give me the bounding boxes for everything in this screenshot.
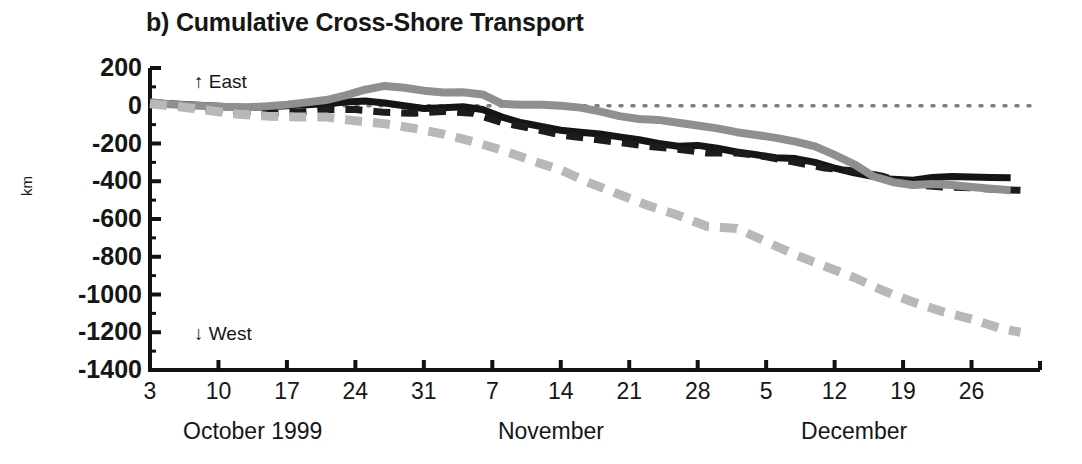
x-tick-label-7: 21 <box>616 378 642 405</box>
chart-figure: b) Cumulative Cross-Shore Transport km 2… <box>0 0 1082 464</box>
x-tick-label-6: 14 <box>548 378 574 405</box>
annotation-east: ↑ East <box>194 71 247 93</box>
x-tick-label-2: 17 <box>274 378 300 405</box>
x-tick-label-4: 31 <box>411 378 437 405</box>
x-tick-label-11: 19 <box>890 378 916 405</box>
x-tick-label-8: 28 <box>685 378 711 405</box>
x-tick-label-3: 24 <box>343 378 369 405</box>
month-label-0: October 1999 <box>183 418 322 445</box>
x-tick-label-0: 3 <box>144 378 157 405</box>
annotation-west: ↓ West <box>194 323 252 345</box>
plot-area <box>0 0 1082 464</box>
x-tick-label-1: 10 <box>206 378 232 405</box>
month-label-2: December <box>801 418 907 445</box>
month-label-1: November <box>498 418 604 445</box>
x-tick-label-9: 5 <box>760 378 773 405</box>
x-tick-label-10: 12 <box>822 378 848 405</box>
series-lightgray-dashed <box>150 104 1020 332</box>
x-tick-label-12: 26 <box>959 378 985 405</box>
x-tick-label-5: 7 <box>486 378 499 405</box>
